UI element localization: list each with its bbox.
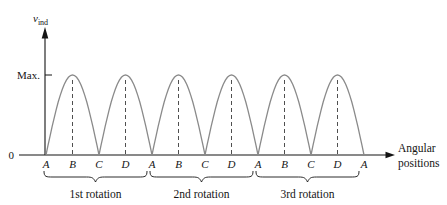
x-tick-label: D bbox=[121, 158, 130, 170]
y-axis-arrowhead-icon bbox=[42, 27, 49, 39]
x-tick-label: B bbox=[281, 158, 288, 170]
voltage-curve bbox=[46, 75, 364, 155]
rotation-labels-group: 1st rotation2nd rotation3rd rotation bbox=[69, 188, 334, 200]
x-tick-label: C bbox=[307, 158, 315, 170]
peak-dashed-guides-group bbox=[73, 77, 338, 154]
rotation-label: 2nd rotation bbox=[174, 188, 230, 200]
chart-canvas: ABCDABCDABCDA 1st rotation2nd rotation3r… bbox=[0, 0, 447, 205]
rotation-underbrace bbox=[44, 171, 147, 182]
x-tick-label: B bbox=[69, 158, 76, 170]
y-max-label: Max. bbox=[17, 69, 40, 81]
x-axis-title-line2: positions bbox=[398, 157, 440, 170]
rotation-label: 3rd rotation bbox=[281, 188, 335, 200]
rotation-underbrace bbox=[256, 171, 359, 182]
x-tick-label: C bbox=[201, 158, 209, 170]
x-tick-label: A bbox=[254, 158, 262, 170]
rectified-voltage-figure: ABCDABCDABCDA 1st rotation2nd rotation3r… bbox=[0, 0, 447, 205]
y-origin-label: 0 bbox=[9, 149, 15, 161]
x-tick-label: A bbox=[360, 158, 368, 170]
voltage-curve-group bbox=[46, 75, 364, 155]
x-axis-arrowhead-icon bbox=[386, 152, 396, 158]
x-tick-label: A bbox=[148, 158, 156, 170]
rotation-braces-group bbox=[44, 171, 359, 182]
x-tick-label: C bbox=[95, 158, 103, 170]
x-tick-label: D bbox=[227, 158, 236, 170]
x-tick-labels-group: ABCDABCDABCDA bbox=[42, 158, 368, 170]
y-axis-title: vind bbox=[33, 12, 48, 27]
rotation-underbrace bbox=[150, 171, 253, 182]
x-tick-label: A bbox=[42, 158, 50, 170]
y-axis-title-sub: ind bbox=[38, 18, 48, 27]
rotation-label: 1st rotation bbox=[69, 188, 121, 200]
x-axis-title-line1: Angular bbox=[398, 142, 436, 155]
x-tick-label: B bbox=[175, 158, 182, 170]
x-tick-label: D bbox=[333, 158, 342, 170]
